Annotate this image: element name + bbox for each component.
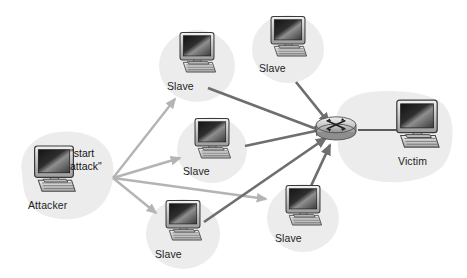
attack-command-label: "start attack" [70, 147, 102, 172]
slave-4-computer-icon [166, 201, 202, 241]
flood-arrow-slave-2-to-victim [296, 82, 329, 123]
slave-5-computer-icon [286, 186, 322, 226]
slave-1-label: Slave [167, 80, 194, 92]
command-arrow-to-slave-1 [113, 99, 175, 178]
slave-5-label: Slave [275, 232, 302, 244]
slave-4-label: Slave [155, 248, 182, 260]
slave-2-computer-icon [271, 17, 307, 57]
flood-arrow-slave-3-to-victim [245, 129, 325, 146]
slave-3-computer-icon [195, 119, 231, 159]
network-diagram-svg [0, 0, 467, 278]
attacker-label: Attacker [28, 199, 67, 211]
victim-computer-icon [397, 100, 439, 147]
victim-label: Victim [398, 155, 427, 167]
slave-1-computer-icon [180, 33, 216, 73]
command-arrow-to-slave-3 [113, 158, 180, 178]
victim-router-icon [316, 117, 356, 140]
slave-3-label: Slave [183, 165, 210, 177]
diagram-canvas: "start attack" Attacker Slave Slave Slav… [0, 0, 467, 278]
flood-arrow-slave-5-to-victim [311, 145, 330, 186]
slave-2-label: Slave [259, 62, 286, 74]
